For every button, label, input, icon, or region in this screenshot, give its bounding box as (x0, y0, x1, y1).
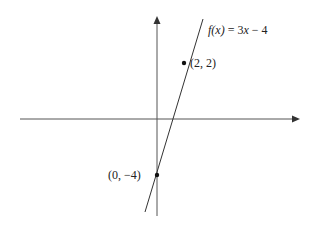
graph-canvas (0, 0, 315, 229)
point-label-0-neg4: (0, −4) (108, 169, 141, 181)
function-name: f(x) (208, 23, 225, 37)
y-axis-arrow-icon (154, 16, 161, 24)
point-label-2-2: (2, 2) (190, 57, 216, 69)
point-0-neg4 (155, 173, 159, 177)
function-equals: = 3 (225, 23, 244, 37)
point-2-2 (182, 61, 186, 65)
function-label: f(x) = 3x − 4 (208, 24, 268, 36)
function-line (145, 19, 203, 212)
function-constant: − 4 (249, 23, 268, 37)
x-axis-arrow-icon (292, 116, 300, 123)
